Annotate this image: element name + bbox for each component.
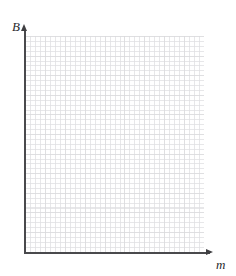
y-axis-label: B (12, 20, 20, 33)
x-axis-label: m (216, 258, 225, 271)
y-axis-line (24, 30, 26, 254)
graph-figure: B m (0, 0, 236, 276)
arrow-up-icon (21, 24, 27, 31)
grid-dot-overlay (25, 36, 204, 252)
arrow-right-icon (206, 249, 213, 255)
x-axis-line (24, 252, 210, 254)
plot-grid-area[interactable] (25, 36, 204, 252)
